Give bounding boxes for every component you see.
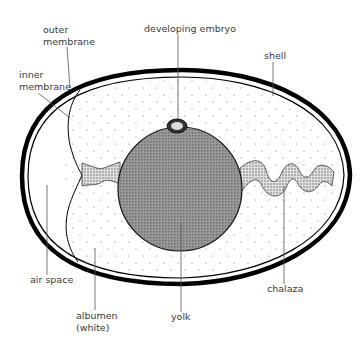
label-outer-membrane-line1: outer [43, 24, 95, 36]
label-developing-embryo: developing embryo [144, 23, 236, 35]
label-inner-membrane-line1: inner [19, 69, 71, 81]
label-outer-membrane-line2: membrane [43, 36, 95, 48]
label-albumen-line1: albumen [76, 310, 118, 322]
label-shell: shell [264, 50, 286, 62]
label-air-space: air space [30, 274, 73, 286]
label-chalaza: chalaza [267, 283, 303, 295]
label-albumen: albumen (white) [76, 310, 118, 334]
label-outer-membrane: outer membrane [43, 24, 95, 48]
label-inner-membrane: inner membrane [19, 69, 71, 93]
yolk-circle [118, 127, 242, 251]
label-albumen-line2: (white) [76, 322, 118, 334]
egg-diagram [0, 0, 362, 346]
label-inner-membrane-line2: membrane [19, 81, 71, 93]
label-yolk: yolk [171, 311, 191, 323]
